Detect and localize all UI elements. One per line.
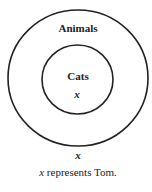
caption: x represents Tom. <box>39 166 117 178</box>
outer-element-marker: x <box>75 149 81 161</box>
inner-element-marker: x <box>74 88 80 100</box>
inner-set-label: Cats <box>67 70 88 82</box>
caption-text: represents Tom. <box>44 166 117 178</box>
outer-set-label: Animals <box>58 22 97 34</box>
